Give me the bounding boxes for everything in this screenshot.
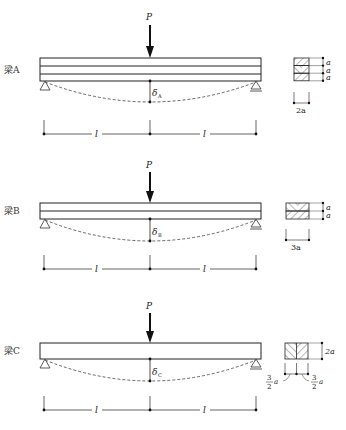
load-label-c: P xyxy=(145,301,153,311)
svg-text:2: 2 xyxy=(267,383,271,391)
svg-text:a: a xyxy=(326,211,331,220)
deflection-c-sub: C xyxy=(158,372,162,378)
beam-comparison-diagram: P 梁A δ A xyxy=(0,0,346,430)
svg-text:3: 3 xyxy=(267,374,271,382)
span-dimension: l l xyxy=(43,120,258,139)
deflection-a-sub: A xyxy=(157,93,162,99)
beam-c-group: P 梁C δ C l l xyxy=(4,301,335,415)
deflection-curve xyxy=(45,360,256,381)
span-dimension: l l xyxy=(43,255,258,274)
cross-section-b: a a 3a xyxy=(285,202,331,252)
deflection-c-symbol: δ xyxy=(152,367,157,377)
svg-text:3: 3 xyxy=(312,374,316,382)
svg-text:l: l xyxy=(95,405,98,415)
svg-text:l: l xyxy=(95,264,98,274)
svg-text:3a: 3a xyxy=(291,243,301,252)
roller-support-icon xyxy=(250,81,262,91)
beam-a-body xyxy=(40,58,261,81)
svg-text:l: l xyxy=(203,405,206,415)
beam-b-body xyxy=(40,203,261,219)
svg-text:2: 2 xyxy=(312,383,316,391)
cross-section-c: 2a 3 2 a 3 2 a xyxy=(266,342,335,391)
load-label-a: P xyxy=(145,12,153,22)
deflection-b-symbol: δ xyxy=(152,227,157,237)
svg-text:a: a xyxy=(319,378,323,386)
load-arrow-icon xyxy=(146,313,154,343)
load-label-b: P xyxy=(145,160,153,170)
beam-b-group: P 梁B δ B xyxy=(4,160,331,274)
beam-b-label: 梁B xyxy=(4,205,20,216)
load-arrow-icon xyxy=(146,25,154,58)
svg-text:a: a xyxy=(274,378,278,386)
load-arrow-icon xyxy=(146,172,154,203)
svg-text:l: l xyxy=(203,264,206,274)
cross-section-a: a a a 2a xyxy=(293,57,331,115)
svg-text:l: l xyxy=(203,129,206,139)
deflection-curve xyxy=(45,220,256,241)
deflection-b-sub: B xyxy=(158,232,162,238)
svg-text:2a: 2a xyxy=(296,106,306,115)
beam-c-label: 梁C xyxy=(4,345,20,356)
deflection-curve xyxy=(45,82,256,102)
beam-a-label: 梁A xyxy=(4,64,20,75)
beam-a-group: P 梁A δ A xyxy=(4,12,331,139)
deflection-a-symbol: δ xyxy=(152,88,157,98)
roller-support-icon xyxy=(250,359,262,369)
svg-text:2a: 2a xyxy=(324,347,335,356)
svg-text:a: a xyxy=(326,73,331,82)
svg-text:l: l xyxy=(95,129,98,139)
beam-c-body xyxy=(40,343,261,359)
roller-support-icon xyxy=(250,219,262,229)
span-dimension: l l xyxy=(43,396,258,415)
